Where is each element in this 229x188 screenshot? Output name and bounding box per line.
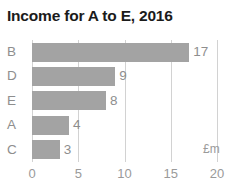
bar-b: [32, 43, 189, 62]
bar-row: D9: [32, 64, 217, 88]
plot-area: B17D9E8A4C3 05101520: [32, 40, 217, 162]
bar-value-a: 4: [73, 115, 81, 134]
bar-row: C3: [32, 138, 217, 162]
category-label-c: C: [7, 138, 27, 162]
x-tick-20: 20: [210, 166, 224, 181]
bar-value-e: 8: [110, 91, 118, 110]
bar-e: [32, 91, 106, 110]
bar-value-b: 17: [193, 42, 208, 61]
bar-d: [32, 67, 115, 86]
bar-value-d: 9: [119, 66, 127, 85]
bar-row: E8: [32, 89, 217, 113]
x-tick-0: 0: [28, 166, 35, 181]
category-label-e: E: [7, 89, 27, 113]
bar-c: [32, 140, 60, 159]
category-label-a: A: [7, 113, 27, 137]
category-label-b: B: [7, 40, 27, 64]
bar-a: [32, 116, 69, 135]
chart-title: Income for A to E, 2016: [7, 7, 173, 25]
x-axis-unit-label: £m: [203, 142, 220, 156]
x-tick-5: 5: [75, 166, 82, 181]
x-tick-15: 15: [164, 166, 178, 181]
category-label-d: D: [7, 64, 27, 88]
bar-row: A4: [32, 113, 217, 137]
x-tick-10: 10: [117, 166, 131, 181]
bar-chart: Income for A to E, 2016 B17D9E8A4C3 0510…: [0, 0, 229, 188]
bar-value-c: 3: [64, 140, 72, 159]
bar-row: B17: [32, 40, 217, 64]
